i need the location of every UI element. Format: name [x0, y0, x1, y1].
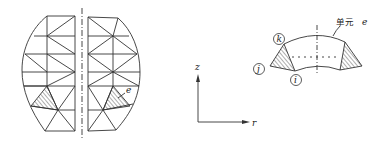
element-label-e: e [126, 85, 131, 95]
axis-label-r: r [252, 118, 257, 128]
axis-label-z: z [194, 62, 200, 72]
coordinate-axes: z r [194, 62, 257, 128]
ring-element-figure: k j i 单元 e [254, 17, 368, 86]
element-callout-symbol: e [362, 17, 367, 27]
diagram-canvas: e z r k j i 单元 e [0, 0, 384, 145]
r-arrow-icon [242, 120, 250, 124]
meshed-body-figure: e [22, 8, 140, 138]
node-i-label: i [294, 75, 297, 85]
hatched-element-left [31, 86, 58, 110]
ring-section-left [270, 44, 295, 71]
node-k-label: k [277, 34, 282, 44]
z-arrow-icon [196, 74, 200, 82]
element-callout-label: 单元 [336, 17, 354, 27]
ring-section-right [340, 42, 362, 70]
